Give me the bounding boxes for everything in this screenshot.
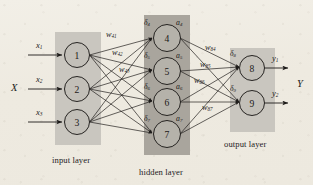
node-8-label: 8	[250, 63, 255, 74]
weight-label-w43: w43	[119, 66, 129, 74]
input-signal-x1: x1	[36, 41, 42, 50]
weight-label-w87: w87	[202, 104, 212, 112]
caption-hidden-layer: hidden layer	[139, 167, 183, 177]
node-2-label: 2	[75, 84, 80, 95]
weight-label-w41: w41	[106, 31, 116, 39]
node-4-label: 4	[165, 33, 170, 44]
output-bundle-label: Y	[297, 79, 303, 90]
node-9-label: 9	[250, 98, 255, 109]
network-graphics: 1 2 3 4 5 6 7 8 9	[0, 0, 313, 185]
delta-label-d5: δ5	[144, 52, 150, 61]
output-signal-y2: y2	[272, 89, 278, 98]
output-signal-y1: y1	[272, 54, 278, 63]
delta-label-d4: δ4	[144, 19, 150, 28]
input-signal-x3: x3	[36, 108, 42, 117]
caption-output-layer: output layer	[224, 139, 267, 149]
weight-label-w85: w85	[200, 61, 210, 69]
input-bundle-label: X	[11, 83, 17, 94]
delta-label-d9: δ9	[230, 85, 236, 94]
network-diagram: 1 2 3 4 5 6 7 8 9 x1 x2 x3 X	[0, 0, 313, 185]
activation-label-a4: a4	[176, 19, 182, 28]
input-signal-x2: x2	[36, 75, 42, 84]
weight-label-w86: w86	[194, 77, 204, 85]
weight-label-w42: w42	[112, 49, 122, 57]
delta-label-d6: δ6	[144, 83, 150, 92]
node-3-label: 3	[75, 117, 80, 128]
activation-label-a7: a7	[176, 115, 182, 124]
node-1-label: 1	[75, 50, 80, 61]
node-5-label: 5	[165, 66, 170, 77]
delta-label-d8: δ8	[230, 50, 236, 59]
node-7-label: 7	[165, 129, 170, 140]
activation-label-a6: a6	[176, 83, 182, 92]
activation-label-a5: a5	[176, 52, 182, 61]
delta-label-d7: δ7	[144, 115, 150, 124]
node-6-label: 6	[165, 97, 170, 108]
caption-input-layer: input layer	[52, 155, 90, 165]
input-layer-nodes: 1 2 3	[65, 43, 90, 135]
weight-label-w84: w84	[205, 44, 215, 52]
